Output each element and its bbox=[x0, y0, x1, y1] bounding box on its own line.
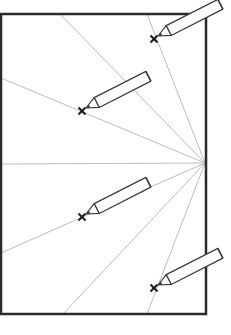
ray-line bbox=[1, 78, 205, 163]
ray-line bbox=[147, 163, 205, 314]
ray-line bbox=[1, 163, 205, 164]
x-mark-icon bbox=[151, 285, 158, 292]
pencil-icon bbox=[84, 71, 151, 113]
x-mark-icon bbox=[79, 214, 86, 221]
pencil-icon bbox=[84, 177, 151, 219]
ray-lines bbox=[1, 14, 205, 314]
pencil-icon bbox=[156, 248, 223, 290]
pencils bbox=[84, 0, 223, 290]
pencil-icon bbox=[156, 0, 223, 41]
radiating-lines-diagram bbox=[0, 0, 231, 335]
